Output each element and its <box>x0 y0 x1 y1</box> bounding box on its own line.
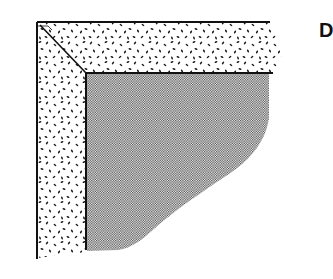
panel-label: D <box>319 20 333 40</box>
shaded-inner-region <box>87 74 269 251</box>
